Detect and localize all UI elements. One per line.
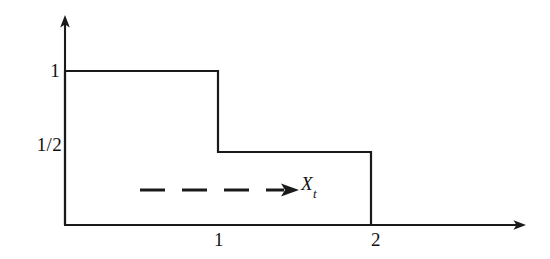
x-tick-label-1: 1 (199, 229, 239, 251)
y-tick-label-one-half: 1/2 (10, 134, 62, 156)
plot-canvas (0, 0, 550, 259)
x-axis (64, 220, 526, 230)
y-tick-label-1: 1 (20, 60, 60, 82)
x-tick-label-2: 2 (356, 229, 396, 251)
annotation-dashed-arrow (140, 184, 299, 197)
step-function-curve (65, 71, 371, 225)
step-function-figure: 1 1/2 1 2 Xt (0, 0, 550, 259)
series-label: Xt (301, 173, 316, 199)
series-symbol: X (301, 173, 313, 194)
series-subscript: t (313, 186, 317, 201)
